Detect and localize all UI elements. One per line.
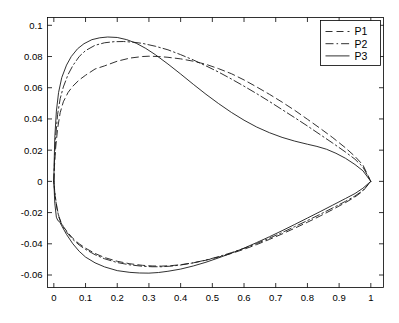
y-tick-label: -0.04 bbox=[21, 238, 43, 249]
x-tick-label: 0.1 bbox=[79, 292, 92, 303]
x-tick-label: 0.4 bbox=[174, 292, 187, 303]
y-tick-label: 0.08 bbox=[24, 51, 43, 62]
legend-label-p3: P3 bbox=[355, 50, 368, 62]
curves-group bbox=[54, 37, 371, 273]
figure-container: 00.10.20.30.40.50.60.70.80.910.10.080.06… bbox=[0, 0, 399, 323]
x-tick-label: 0.9 bbox=[333, 292, 346, 303]
y-tick-label: -0.02 bbox=[21, 207, 43, 218]
legend-label-p1: P1 bbox=[355, 25, 368, 37]
legend-label-p2: P2 bbox=[355, 38, 368, 50]
legend-box bbox=[321, 21, 381, 66]
x-tick-label: 1 bbox=[368, 292, 373, 303]
y-tick-label: 0.04 bbox=[24, 113, 43, 124]
x-tick-label: 0.5 bbox=[206, 292, 219, 303]
x-tick-label: 0.7 bbox=[269, 292, 282, 303]
y-tick-label: 0.06 bbox=[24, 82, 43, 93]
series-curve-p3 bbox=[54, 37, 371, 273]
x-tick-label: 0.8 bbox=[301, 292, 314, 303]
y-tick-label: -0.06 bbox=[21, 269, 43, 280]
series-curve-p1 bbox=[54, 56, 371, 266]
x-tick-label: 0.3 bbox=[142, 292, 155, 303]
x-tick-label: 0.2 bbox=[111, 292, 124, 303]
legend[interactable]: P1P2P3 bbox=[321, 21, 381, 66]
y-tick-label: 0.1 bbox=[29, 20, 42, 31]
y-tick-label: 0.02 bbox=[24, 145, 43, 156]
series-curve-p2 bbox=[54, 42, 371, 267]
airfoil-plot: 00.10.20.30.40.50.60.70.80.910.10.080.06… bbox=[0, 0, 399, 323]
x-tick-label: 0 bbox=[51, 292, 56, 303]
y-tick-label: 0 bbox=[37, 176, 42, 187]
x-tick-label: 0.6 bbox=[237, 292, 250, 303]
